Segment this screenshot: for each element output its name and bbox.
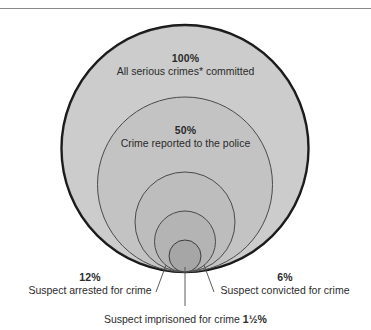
label-reported-description: Crime reported to the police xyxy=(0,137,371,150)
label-imprisoned-description: Suspect imprisoned for crime xyxy=(104,313,243,325)
crime-funnel-figure: 100% All serious crimes* committed 50% C… xyxy=(0,0,371,330)
label-all-crimes-description: All serious crimes* committed xyxy=(0,65,371,78)
label-suspect-convicted: 6% Suspect convicted for crime xyxy=(205,271,365,298)
label-reported-to-police: 50% Crime reported to the police xyxy=(0,124,371,151)
label-all-crimes-percent: 100% xyxy=(0,52,371,65)
label-suspect-imprisoned: Suspect imprisoned for crime 1½% xyxy=(0,308,371,328)
label-convicted-description: Suspect convicted for crime xyxy=(205,284,365,297)
label-arrested-description: Suspect arrested for crime xyxy=(8,284,172,297)
label-arrested-percent: 12% xyxy=(8,271,172,284)
label-reported-percent: 50% xyxy=(0,124,371,137)
label-all-crimes: 100% All serious crimes* committed xyxy=(0,52,371,79)
label-convicted-percent: 6% xyxy=(205,271,365,284)
label-suspect-arrested: 12% Suspect arrested for crime xyxy=(8,271,172,298)
label-imprisoned-percent: 1½% xyxy=(243,313,267,325)
